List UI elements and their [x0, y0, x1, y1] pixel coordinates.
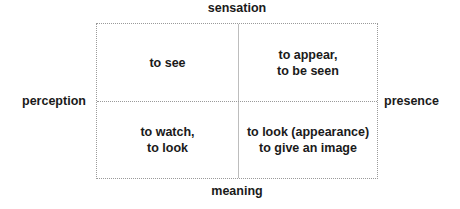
quadrant-top-left: to see [97, 24, 238, 101]
axis-label-perception: perception [22, 94, 86, 108]
quadrant-top-right: to appear, to be seen [238, 24, 378, 101]
quadrant-grid: to see to appear, to be seen to watch, t… [96, 23, 378, 179]
quadrant-bottom-right: to look (appearance) to give an image [238, 102, 378, 178]
axis-label-presence: presence [384, 94, 439, 108]
quadrant-bottom-left: to watch, to look [97, 102, 238, 178]
axis-label-meaning: meaning [0, 184, 460, 198]
axis-label-sensation: sensation [0, 1, 460, 15]
